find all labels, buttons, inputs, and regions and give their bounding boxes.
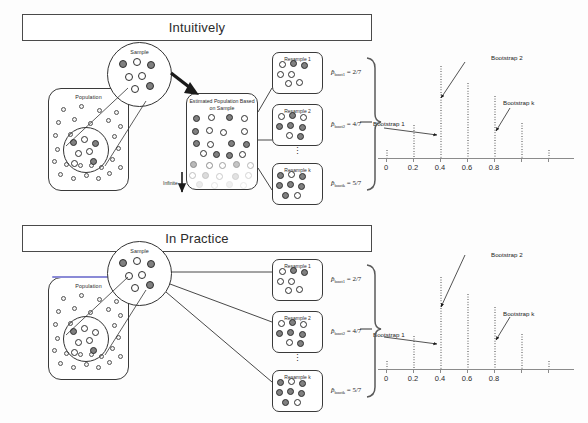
bar (521, 334, 523, 369)
figure-canvas: Intuitively Population (0, 0, 588, 423)
resample-ellipsis: ⋮ (292, 150, 302, 154)
resample-ellipsis: ⋮ (292, 357, 302, 361)
sample-label: Sample (108, 49, 171, 55)
estimated-population-label: Estimated Population Based on Sample (187, 98, 257, 111)
bar (494, 307, 496, 369)
panel-intuitively: Intuitively Population (0, 0, 588, 211)
tick-label: 0.2 (408, 374, 418, 383)
panel-in-practice: In Practice Population (0, 211, 588, 422)
tick-label: 0.6 (462, 163, 472, 172)
bar (521, 123, 523, 158)
phat-resample-1: p̂boot1 = 2/7 (331, 68, 361, 77)
tick-label: 0.2 (408, 163, 418, 172)
tick-label: 0.8 (489, 163, 499, 172)
annotation-bootstrap-k: Bootstrap k (503, 99, 534, 106)
chart-axis (378, 369, 574, 370)
tick-label: 0.6 (462, 374, 472, 383)
bar (386, 150, 388, 158)
tick-label: 0.8 (489, 374, 499, 383)
annotation-bootstrap-2: Bootstrap 2 (491, 251, 523, 258)
panel-title: Intuitively (169, 20, 225, 35)
phat-resample-2: p̂boot2 = 4/7 (331, 327, 361, 336)
phat-resample-k: p̂bootk = 5/7 (331, 386, 361, 395)
bar (548, 361, 550, 369)
panel-title: In Practice (165, 231, 229, 246)
bar (494, 96, 496, 158)
bootstrap-distribution-chart: 0 0.2 0.4 0.6 0.8 Bootstrap 1 Bootstrap … (378, 45, 578, 185)
tick-label: 0.4 (435, 163, 445, 172)
bootstrap-distribution-chart: 0 0.2 0.4 0.6 0.8 Bootstrap 1 Bootstrap … (378, 256, 578, 396)
annotation-bootstrap-2: Bootstrap 2 (491, 54, 523, 61)
bar (548, 150, 550, 158)
bar (440, 66, 442, 158)
phat-resample-2: p̂boot2 = 4/7 (331, 120, 361, 129)
tick-label: 0 (384, 374, 388, 383)
panel-title-box-in-practice: In Practice (22, 225, 372, 252)
infinite-label: Infinite (163, 180, 178, 186)
bar (467, 294, 469, 369)
bar (386, 361, 388, 369)
annotation-bootstrap-1: Bootstrap 1 (373, 331, 405, 338)
bar (413, 125, 415, 158)
bar (413, 336, 415, 369)
tick-label: 0 (384, 163, 388, 172)
sample-label: Sample (108, 248, 171, 254)
panel-title-box-intuitively: Intuitively (22, 14, 372, 41)
phat-resample-1: p̂boot1 = 2/7 (331, 275, 361, 284)
chart-axis (378, 158, 574, 159)
annotation-bootstrap-1: Bootstrap 1 (373, 120, 405, 127)
phat-resample-k: p̂bootk = 5/7 (331, 179, 361, 188)
bar (440, 277, 442, 369)
tick-label: 0.4 (435, 374, 445, 383)
bar (467, 83, 469, 158)
annotation-bootstrap-k: Bootstrap k (503, 310, 534, 317)
